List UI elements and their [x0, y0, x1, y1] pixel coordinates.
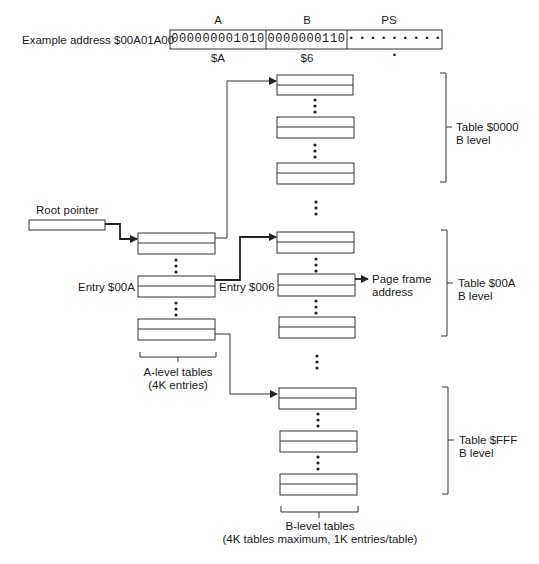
- b-table-00a: [277, 232, 355, 338]
- b-table-fff: [279, 388, 358, 518]
- field-b-bits: 0000000110: [266, 31, 347, 48]
- a-level-caption-sub: (4K entries): [128, 379, 228, 392]
- entry-00a-label: Entry $00A: [78, 281, 135, 294]
- a-level-caption: A-level tables: [128, 366, 228, 379]
- page-frame-label-sub: address: [372, 286, 413, 299]
- b-level-caption: B-level tables: [200, 520, 440, 533]
- field-a-bits: 000000001010: [170, 31, 266, 48]
- a-level-table: [138, 233, 216, 362]
- field-ps-bits: • • • • • • • • • •: [347, 31, 442, 48]
- table-fff-label: Table $FFF: [459, 434, 517, 447]
- field-b-hex: $6: [292, 52, 322, 65]
- bracket-table-0000: [440, 73, 446, 182]
- table-00a-label: Table $00A: [458, 277, 516, 290]
- root-pointer-box: [29, 220, 105, 230]
- field-a-hex: $A: [203, 52, 233, 65]
- entry-006-label: Entry $006: [219, 281, 275, 294]
- root-pointer-arrow: [105, 224, 137, 239]
- entry-00a-to-table00a-arrow: [215, 237, 276, 280]
- bracket-table-00a: [441, 230, 447, 336]
- field-a-label: A: [206, 14, 230, 27]
- example-address-label: Example address $00A01A00: [22, 34, 174, 47]
- a-entry0-to-table0000-arrow: [215, 81, 276, 238]
- page-frame-label: Page frame: [372, 273, 431, 286]
- table-0000-label: Table $0000: [456, 121, 519, 134]
- field-b-label: B: [295, 14, 319, 27]
- b-table-0000: [277, 75, 354, 184]
- field-ps-label: PS: [374, 14, 404, 27]
- table-00a-sublabel: B level: [458, 290, 493, 303]
- page-table-diagram: Example address $00A01A00 A B PS 0000000…: [0, 0, 539, 564]
- bracket-table-fff: [442, 387, 448, 494]
- b-level-caption-sub: (4K tables maximum, 1K entries/table): [200, 533, 440, 546]
- root-pointer-label: Root pointer: [36, 204, 99, 217]
- table-0000-sublabel: B level: [456, 134, 491, 147]
- table-fff-sublabel: B level: [459, 447, 494, 460]
